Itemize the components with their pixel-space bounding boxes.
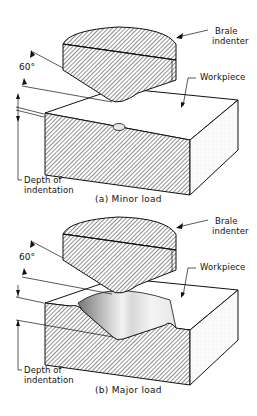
brale-indenter-a — [63, 27, 176, 102]
panel-a-minor-load — [16, 27, 238, 195]
depth-label-b-line2: indentation — [24, 376, 74, 386]
indenter-label-b-line2: indenter — [212, 227, 249, 237]
caption-b: (b) Major load — [95, 385, 162, 395]
depth-label-a-line2: indentation — [24, 186, 74, 196]
workpiece-label-b: Workpiece — [200, 263, 245, 273]
caption-a: (a) Minor load — [95, 194, 162, 204]
indenter-label-a-line2: indenter — [212, 37, 249, 47]
depth-label-a: Depth of indentation — [24, 176, 74, 195]
panel-b-major-load — [16, 217, 238, 385]
depth-label-b: Depth of indentation — [24, 366, 74, 385]
angle-label-b: 60° — [19, 252, 35, 262]
workpiece-label-a: Workpiece — [200, 73, 245, 83]
workpiece-block-b — [45, 278, 238, 385]
workpiece-block-a — [45, 88, 238, 195]
indenter-label-a: Brale indenter — [212, 27, 249, 46]
angle-label-a: 60° — [19, 62, 35, 72]
rockwell-hardness-diagram — [0, 0, 257, 416]
indenter-label-b: Brale indenter — [212, 217, 249, 236]
